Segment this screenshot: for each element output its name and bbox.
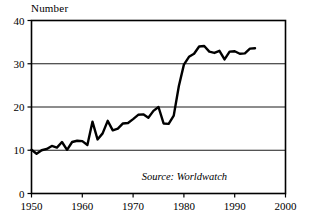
x-tick-label-1980: 1980	[173, 200, 196, 212]
source-note: Source: Worldwatch	[142, 171, 227, 182]
y-axis-tick-labels: 010203040	[14, 15, 26, 200]
y-tick-label-40: 40	[14, 15, 26, 27]
x-tick-label-1960: 1960	[71, 200, 94, 212]
x-tick-label-1970: 1970	[122, 200, 145, 212]
line-chart: 010203040 195019601970198019902000 Sourc…	[0, 0, 313, 222]
x-axis-tick-labels: 195019601970198019902000	[21, 200, 298, 212]
annotations-group: Source: Worldwatch	[142, 171, 227, 182]
data-series-line	[32, 46, 256, 154]
x-tick-label-2000: 2000	[275, 200, 298, 212]
x-tick-label-1950: 1950	[21, 200, 44, 212]
x-tick-label-1990: 1990	[224, 200, 247, 212]
y-tick-label-20: 20	[14, 101, 26, 113]
y-tick-label-10: 10	[14, 144, 26, 156]
y-tick-label-0: 0	[19, 188, 25, 200]
chart-figure: Number 010203040 19501960197019801990200…	[0, 0, 313, 222]
series-line-number	[32, 46, 256, 154]
y-tick-label-30: 30	[14, 58, 26, 70]
